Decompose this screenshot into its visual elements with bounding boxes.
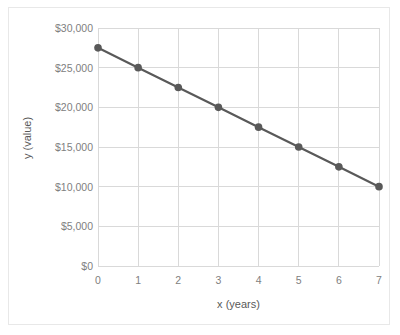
y-axis-tick-label: $20,000: [27, 102, 93, 113]
x-axis-tick-label: 7: [364, 275, 394, 286]
x-axis-tick-labels: 01234567: [98, 275, 379, 291]
data-point-marker: [134, 64, 142, 72]
data-point-marker: [94, 44, 102, 52]
x-axis-title: x (years): [98, 298, 379, 310]
x-axis-tick-label: 0: [83, 275, 113, 286]
data-point-marker: [375, 183, 383, 191]
x-axis-tick-label: 3: [203, 275, 233, 286]
data-point-marker: [335, 163, 343, 171]
y-axis-tick-label: $0: [27, 261, 93, 272]
y-axis-tick-labels: $0$5,000$10,000$15,000$20,000$25,000$30,…: [23, 28, 93, 266]
data-point-marker: [255, 123, 263, 131]
x-axis-tick-label: 5: [284, 275, 314, 286]
y-axis-tick-label: $30,000: [27, 23, 93, 34]
data-series-line: [98, 28, 379, 266]
data-point-marker: [215, 104, 223, 112]
y-axis-tick-label: $5,000: [27, 221, 93, 232]
plot-area: [98, 28, 379, 266]
y-axis-tick-label: $25,000: [27, 63, 93, 74]
x-axis-tick-label: 4: [244, 275, 274, 286]
data-point-marker: [174, 84, 182, 92]
y-axis-tick-label: $10,000: [27, 182, 93, 193]
data-point-marker: [295, 143, 303, 151]
y-axis-tick-label: $15,000: [27, 142, 93, 153]
chart-frame: y (value) $0$5,000$10,000$15,000$20,000$…: [8, 7, 390, 325]
x-axis-tick-label: 6: [324, 275, 354, 286]
x-axis-tick-label: 2: [163, 275, 193, 286]
x-axis-tick-label: 1: [123, 275, 153, 286]
